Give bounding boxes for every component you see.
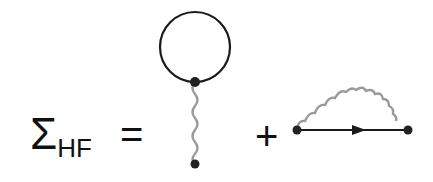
- vertex-dot-right: [404, 126, 413, 135]
- vertex-dot-left: [293, 126, 302, 135]
- feynman-diagrams: [0, 0, 433, 182]
- wavy-interaction-line: [193, 82, 198, 164]
- wavy-exchange-arc: [297, 88, 396, 128]
- arrow-icon: [352, 125, 366, 135]
- fermion-loop: [160, 12, 230, 82]
- end-dot: [191, 160, 200, 169]
- vertex-dot: [190, 77, 200, 87]
- hartree-diagram: [160, 12, 230, 169]
- fock-diagram: [293, 88, 413, 135]
